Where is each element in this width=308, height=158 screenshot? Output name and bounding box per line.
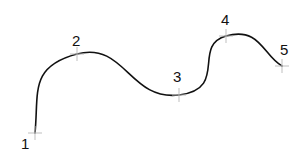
crosshair-marker-1 [28, 126, 42, 140]
crosshair-marker-3 [172, 88, 186, 102]
crosshair-marker-2 [70, 47, 84, 61]
point-label-5: 5 [280, 41, 288, 58]
crosshair-marker-5 [275, 59, 289, 73]
point-label-4: 4 [221, 11, 229, 28]
point-label-2: 2 [72, 32, 80, 49]
point-label-3: 3 [173, 68, 181, 85]
control-point-labels: 1 2 3 4 5 [21, 11, 288, 152]
crosshair-marker-4 [219, 29, 233, 43]
control-point-markers [28, 29, 289, 140]
point-label-1: 1 [21, 135, 29, 152]
spline-diagram: 1 2 3 4 5 [0, 0, 308, 158]
